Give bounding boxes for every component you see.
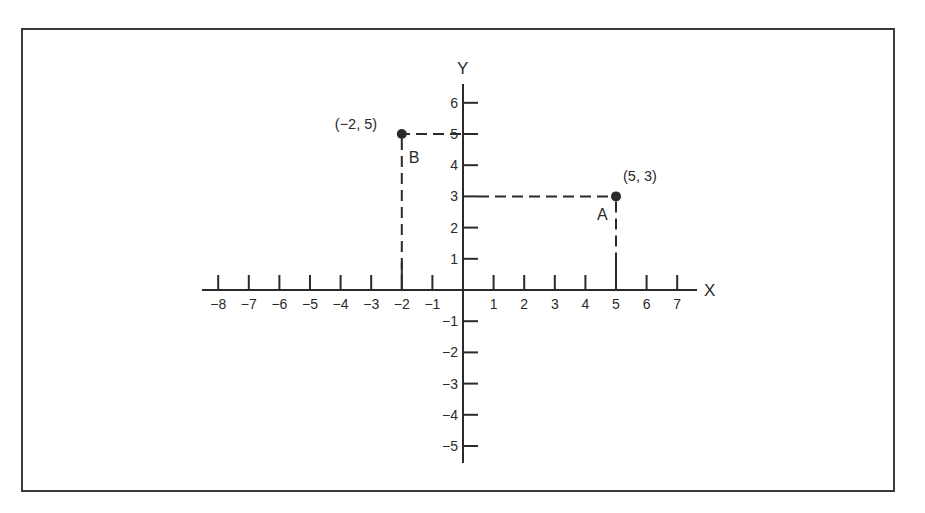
x-axis-ticks: −8−7−6−5−4−3−2−11234567 [210,275,681,312]
x-tick-label: −2 [394,296,410,312]
y-axis-ticks: 654321−1−2−3−4−5 [442,95,478,454]
x-tick-label: −4 [333,296,349,312]
y-tick-label: 1 [450,251,458,267]
x-tick-label: −1 [424,296,440,312]
x-tick-label: −6 [271,296,287,312]
y-tick-label: −1 [442,313,458,329]
x-tick-label: 3 [551,296,559,312]
coordinate-plane: X Y −8−7−6−5−4−3−2−11234567 654321−1−2−3… [0,0,925,513]
x-tick-label: 5 [612,296,620,312]
plotted-points: A(5, 3)B(−2, 5) [335,116,657,223]
y-tick-label: 6 [450,95,458,111]
y-tick-label: −5 [442,438,458,454]
x-tick-label: −5 [302,296,318,312]
point-a-name: A [597,206,608,223]
point-b-coordinates: (−2, 5) [335,116,377,132]
x-tick-label: −8 [210,296,226,312]
y-tick-label: 4 [450,157,458,173]
point-b-marker [397,129,407,139]
x-tick-label: 2 [520,296,528,312]
point-a-coordinates: (5, 3) [623,168,657,184]
point-b-name: B [409,149,420,166]
x-tick-label: 4 [582,296,590,312]
y-tick-label: 2 [450,220,458,236]
y-tick-label: −2 [442,344,458,360]
x-tick-label: 6 [643,296,651,312]
x-tick-label: −7 [241,296,257,312]
x-tick-label: 1 [490,296,498,312]
y-tick-label: −3 [442,376,458,392]
x-tick-label: 7 [673,296,681,312]
x-tick-label: −3 [363,296,379,312]
axes: X Y [202,59,715,463]
point-a-marker [611,191,621,201]
y-tick-label: −4 [442,407,458,423]
projection-lines [397,134,616,290]
x-axis-label: X [704,281,715,300]
y-axis-label: Y [457,59,468,78]
y-tick-label: 3 [450,188,458,204]
